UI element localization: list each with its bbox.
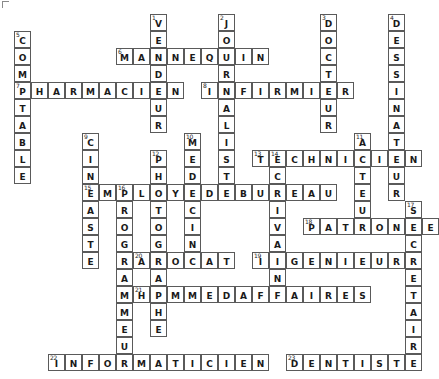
crossword-cell[interactable]: 18P (303, 218, 320, 235)
crossword-cell[interactable]: A (99, 82, 116, 99)
crossword-cell[interactable]: R (269, 184, 286, 201)
crossword-cell[interactable]: N (82, 167, 99, 184)
crossword-cell[interactable]: D (150, 65, 167, 82)
crossword-cell[interactable]: I (354, 354, 371, 371)
crossword-cell[interactable]: E (405, 269, 422, 286)
crossword-cell[interactable]: 15E (82, 184, 99, 201)
crossword-cell[interactable]: A (116, 269, 133, 286)
crossword-cell[interactable]: 4D (388, 14, 405, 31)
crossword-cell[interactable]: I (371, 150, 388, 167)
crossword-cell[interactable]: 9C (82, 133, 99, 150)
crossword-cell[interactable]: F (269, 286, 286, 303)
crossword-cell[interactable]: G (286, 252, 303, 269)
crossword-cell[interactable]: 17S (405, 201, 422, 218)
crossword-cell[interactable]: U (320, 184, 337, 201)
crossword-cell[interactable]: O (99, 354, 116, 371)
crossword-cell[interactable]: A (303, 184, 320, 201)
crossword-cell[interactable]: M (286, 82, 303, 99)
crossword-cell[interactable]: A (235, 286, 252, 303)
crossword-cell[interactable]: E (388, 150, 405, 167)
crossword-cell[interactable]: E (201, 286, 218, 303)
crossword-cell[interactable]: T (14, 99, 31, 116)
crossword-cell[interactable]: N (150, 48, 167, 65)
crossword-cell[interactable]: N (65, 354, 82, 371)
crossword-cell[interactable]: O (371, 218, 388, 235)
crossword-cell[interactable]: N (252, 354, 269, 371)
crossword-cell[interactable]: E (320, 82, 337, 99)
crossword-cell[interactable]: A (201, 252, 218, 269)
crossword-cell[interactable]: N (252, 48, 269, 65)
crossword-cell[interactable]: N (388, 218, 405, 235)
crossword-cell[interactable]: R (388, 252, 405, 269)
crossword-cell[interactable]: S (388, 65, 405, 82)
crossword-cell[interactable]: T (405, 286, 422, 303)
crossword-cell[interactable]: N (320, 354, 337, 371)
crossword-cell[interactable]: O (218, 31, 235, 48)
crossword-cell[interactable]: O (14, 48, 31, 65)
crossword-cell[interactable]: S (388, 48, 405, 65)
crossword-cell[interactable]: V (269, 218, 286, 235)
crossword-cell[interactable]: A (133, 48, 150, 65)
crossword-cell[interactable]: S (218, 150, 235, 167)
crossword-cell[interactable]: T (320, 65, 337, 82)
crossword-cell[interactable]: M (116, 303, 133, 320)
crossword-cell[interactable]: H (31, 82, 48, 99)
crossword-cell[interactable]: E (405, 218, 422, 235)
crossword-cell[interactable]: E (422, 218, 439, 235)
crossword-cell[interactable]: I (405, 320, 422, 337)
crossword-cell[interactable]: E (150, 82, 167, 99)
crossword-cell[interactable]: C (201, 354, 218, 371)
crossword-cell[interactable]: U (320, 99, 337, 116)
crossword-cell[interactable]: R (320, 286, 337, 303)
crossword-cell[interactable]: I (235, 48, 252, 65)
crossword-cell[interactable]: 20A (133, 252, 150, 269)
crossword-cell[interactable]: R (388, 184, 405, 201)
crossword-cell[interactable]: A (218, 99, 235, 116)
crossword-cell[interactable]: C (405, 235, 422, 252)
crossword-cell[interactable]: A (14, 116, 31, 133)
crossword-cell[interactable]: F (235, 82, 252, 99)
crossword-cell[interactable]: 19I (252, 252, 269, 269)
crossword-cell[interactable]: A (320, 218, 337, 235)
crossword-cell[interactable]: C (269, 167, 286, 184)
crossword-cell[interactable]: U (150, 99, 167, 116)
crossword-cell[interactable]: A (82, 201, 99, 218)
crossword-cell[interactable]: 2J (218, 14, 235, 31)
crossword-cell[interactable]: 21H (133, 286, 150, 303)
crossword-cell[interactable]: I (269, 252, 286, 269)
crossword-cell[interactable]: G (116, 235, 133, 252)
crossword-cell[interactable]: M (82, 82, 99, 99)
crossword-cell[interactable]: E (150, 320, 167, 337)
crossword-cell[interactable]: 7P (14, 82, 31, 99)
crossword-cell[interactable]: E (218, 184, 235, 201)
crossword-cell[interactable]: E (303, 354, 320, 371)
crossword-cell[interactable]: N (184, 235, 201, 252)
crossword-cell[interactable]: 14E (269, 150, 286, 167)
crossword-cell[interactable]: U (371, 252, 388, 269)
crossword-cell[interactable]: R (320, 116, 337, 133)
crossword-cell[interactable]: R (354, 218, 371, 235)
crossword-cell[interactable]: R (405, 252, 422, 269)
crossword-cell[interactable]: R (218, 65, 235, 82)
crossword-cell[interactable]: T (388, 133, 405, 150)
crossword-cell[interactable]: E (286, 184, 303, 201)
crossword-cell[interactable]: B (235, 184, 252, 201)
crossword-cell[interactable]: A (388, 116, 405, 133)
crossword-cell[interactable]: N (167, 82, 184, 99)
crossword-cell[interactable]: 11A (354, 133, 371, 150)
crossword-cell[interactable]: R (116, 201, 133, 218)
crossword-cell[interactable]: I (133, 82, 150, 99)
crossword-cell[interactable]: U (388, 167, 405, 184)
crossword-cell[interactable]: N (320, 252, 337, 269)
crossword-cell[interactable]: T (388, 354, 405, 371)
crossword-cell[interactable]: E (235, 354, 252, 371)
crossword-cell[interactable]: I (303, 286, 320, 303)
crossword-cell[interactable]: D (184, 167, 201, 184)
crossword-cell[interactable]: L (133, 184, 150, 201)
crossword-cell[interactable]: T (167, 354, 184, 371)
crossword-cell[interactable]: D (218, 286, 235, 303)
crossword-cell[interactable]: M (184, 286, 201, 303)
crossword-cell[interactable]: E (388, 31, 405, 48)
crossword-cell[interactable]: 1V (150, 14, 167, 31)
crossword-cell[interactable]: E (303, 252, 320, 269)
